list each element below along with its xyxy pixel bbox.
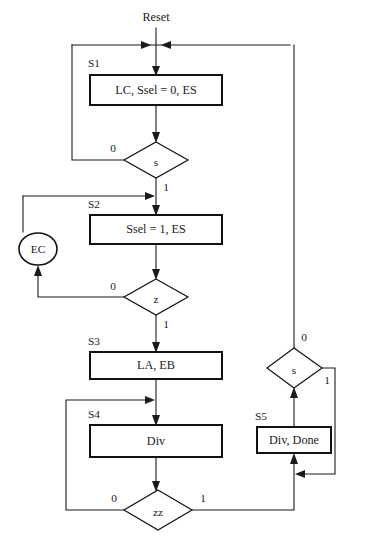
s1-to-s-decision-wire bbox=[152, 105, 160, 143]
conditional-output-ec[interactable]: EC bbox=[19, 233, 57, 265]
conditional-output-ec-text: EC bbox=[31, 243, 46, 255]
branch-label-s-right-true: 1 bbox=[324, 374, 330, 386]
state-label-s4: S4 bbox=[88, 408, 100, 420]
state-box-s4[interactable]: Div bbox=[90, 425, 222, 457]
z-decision-true-wire bbox=[152, 315, 160, 353]
decision-diamond-s-right-label: s bbox=[292, 364, 297, 376]
state-label-s1: S1 bbox=[88, 57, 100, 69]
top-bus-right-arrow bbox=[161, 41, 171, 49]
state-label-s3: S3 bbox=[88, 335, 100, 347]
decision-diamond-zz[interactable]: zz bbox=[124, 490, 192, 530]
decision-diamond-z-label: z bbox=[153, 293, 158, 305]
branch-label-z-true: 1 bbox=[163, 318, 169, 330]
zz-decision-true-wire bbox=[192, 453, 298, 510]
s4-to-zz-decision-wire bbox=[152, 457, 160, 492]
state-label-s5: S5 bbox=[255, 410, 267, 422]
branch-label-s-top-false: 0 bbox=[110, 142, 116, 154]
s3-to-s4-wire bbox=[152, 379, 160, 426]
s5-to-s-decision-wire bbox=[290, 387, 298, 427]
branch-label-zz-false: 0 bbox=[111, 492, 117, 504]
branch-label-s-right-false: 0 bbox=[301, 331, 307, 343]
state-box-s2-text: Ssel = 1, ES bbox=[126, 222, 186, 236]
branch-label-s-top-true: 1 bbox=[163, 181, 169, 193]
state-box-s5[interactable]: Div, Done bbox=[257, 427, 331, 453]
decision-diamond-z[interactable]: z bbox=[124, 279, 188, 315]
state-box-s1-text: LC, Ssel = 0, ES bbox=[115, 83, 197, 97]
state-box-s5-text: Div, Done bbox=[269, 433, 319, 447]
decision-diamond-zz-label: zz bbox=[153, 506, 163, 518]
decision-diamond-s-top[interactable]: s bbox=[124, 142, 188, 178]
state-box-s3-text: LA, EB bbox=[137, 358, 175, 372]
branch-label-z-false: 0 bbox=[110, 280, 116, 292]
state-box-s1[interactable]: LC, Ssel = 0, ES bbox=[90, 75, 222, 105]
asm-flowchart-canvas: LC, Ssel = 0, ES S1 Ssel = 1, ES S2 LA, … bbox=[0, 0, 370, 544]
asm-flowchart-diagram: LC, Ssel = 0, ES S1 Ssel = 1, ES S2 LA, … bbox=[0, 0, 370, 544]
top-bus-wire bbox=[72, 41, 290, 49]
branch-label-zz-true: 1 bbox=[200, 492, 206, 504]
s-decision-true-wire bbox=[152, 178, 160, 216]
s2-to-z-decision-wire bbox=[152, 244, 160, 280]
state-box-s3[interactable]: LA, EB bbox=[90, 352, 222, 379]
decision-diamond-s-right[interactable]: s bbox=[267, 348, 322, 388]
reset-entry-wire bbox=[152, 28, 160, 76]
state-box-s4-text: Div bbox=[147, 434, 166, 448]
reset-label: Reset bbox=[142, 10, 170, 24]
top-bus-left-arrow bbox=[141, 41, 151, 49]
state-label-s2: S2 bbox=[88, 198, 100, 210]
state-box-s2[interactable]: Ssel = 1, ES bbox=[90, 215, 222, 244]
decision-diamond-s-top-label: s bbox=[154, 156, 159, 168]
